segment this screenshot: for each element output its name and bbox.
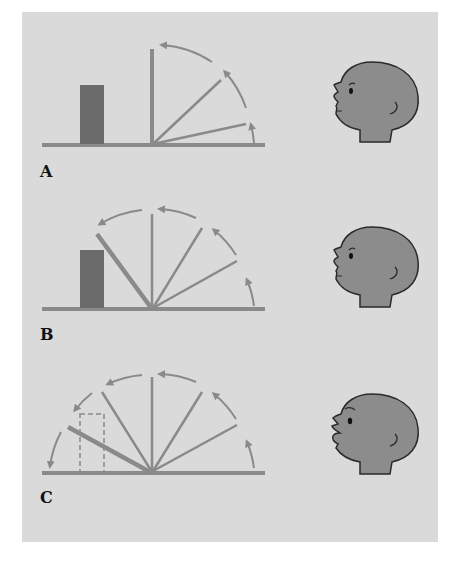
rotation-arrow xyxy=(108,375,142,384)
rotation-arrow xyxy=(251,125,254,143)
eye-icon xyxy=(349,88,353,94)
rotation-arrow xyxy=(247,280,254,306)
rotation-arrow xyxy=(162,45,212,62)
screen-position xyxy=(153,228,202,308)
panel-b xyxy=(42,209,265,311)
panel-label-a: A xyxy=(39,162,53,181)
infant-head-surprised xyxy=(332,394,418,474)
screen-position xyxy=(153,124,246,144)
rotation-arrow xyxy=(100,210,142,224)
rotation-arrow xyxy=(225,72,246,108)
rotation-arrow xyxy=(75,393,92,410)
rotation-arrow xyxy=(247,442,254,468)
screen-position xyxy=(153,261,237,308)
rotation-arrow xyxy=(160,209,196,218)
rotation-arrow xyxy=(214,230,236,255)
panel-label-b: B xyxy=(40,325,54,344)
rotation-arrow xyxy=(214,394,236,419)
panel-a xyxy=(42,45,265,147)
rotation-arrow xyxy=(160,374,196,382)
drawbridge-figure: A B xyxy=(0,0,461,561)
eye-icon xyxy=(349,253,353,259)
screen-position xyxy=(153,392,202,471)
screen-tilted-back xyxy=(97,234,152,309)
eye-icon xyxy=(348,418,352,424)
panel-label-c: C xyxy=(40,488,53,507)
box-solid xyxy=(80,85,104,144)
infant-head-neutral xyxy=(334,227,418,307)
panel-c xyxy=(42,374,265,475)
screen-position xyxy=(153,425,237,471)
box-solid xyxy=(80,250,104,308)
screen-position xyxy=(153,80,221,144)
rotation-arrow xyxy=(50,432,61,466)
infant-head-neutral xyxy=(334,62,418,142)
